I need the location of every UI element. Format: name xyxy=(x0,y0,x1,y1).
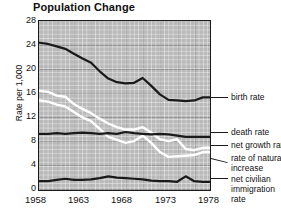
series-line-birth-rate xyxy=(40,43,212,101)
leader-line-net-growth-rate xyxy=(211,145,228,146)
chart-title: Population Change xyxy=(33,1,135,13)
leader-line-rate-of-natural-increase xyxy=(211,158,228,163)
x-tick-1958: 1958 xyxy=(25,194,46,205)
series-line-net-growth-rate xyxy=(40,91,212,151)
leader-line-birth-rate xyxy=(211,97,228,98)
series-line-death-rate xyxy=(40,132,212,137)
x-tick-1973: 1973 xyxy=(155,194,176,205)
legend-label-net-growth-rate: net growth rate xyxy=(231,140,281,150)
x-tick-1968: 1968 xyxy=(111,194,132,205)
legend-label-net-civilian-immigration-rate-line3: rate xyxy=(231,194,246,204)
y-tick-8: 8 xyxy=(14,136,36,145)
legend-label-net-civilian-immigration-rate-line2: immigration xyxy=(231,184,275,194)
plot-area xyxy=(38,20,211,191)
y-tick-16: 16 xyxy=(14,88,36,97)
y-axis-ticks: 28 24 20 16 12 8 4 0 xyxy=(10,0,36,214)
x-tick-1978: 1978 xyxy=(198,194,219,205)
population-change-figure: Population Change Rate per 1,000 28 24 2… xyxy=(0,0,281,214)
legend-label-rate-of-natural-increase-line2: increase xyxy=(231,163,263,173)
legend-label-net-civilian-immigration-rate-line1: net civilian xyxy=(231,174,271,184)
legend-label-rate-of-natural-increase-line1: rate of natural xyxy=(231,153,281,163)
legend-label-death-rate: death rate xyxy=(231,127,269,137)
x-tick-1963: 1963 xyxy=(68,194,89,205)
y-tick-20: 20 xyxy=(14,64,36,73)
y-tick-0: 0 xyxy=(14,184,36,193)
series-line-net-civilian-immigration-rate xyxy=(40,176,212,181)
legend-label-birth-rate: birth rate xyxy=(231,92,265,102)
leader-line-net-civilian-immigration-rate xyxy=(211,178,228,179)
series-group xyxy=(40,43,212,182)
y-tick-28: 28 xyxy=(14,16,36,25)
y-tick-12: 12 xyxy=(14,112,36,121)
leader-line-death-rate xyxy=(211,132,228,133)
y-tick-24: 24 xyxy=(14,40,36,49)
y-tick-4: 4 xyxy=(14,160,36,169)
series-container xyxy=(39,21,211,191)
